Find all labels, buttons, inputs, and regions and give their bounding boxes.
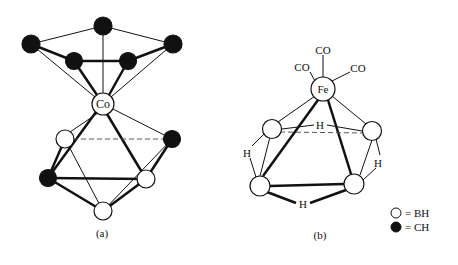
ch-atom (94, 17, 112, 35)
diagram-canvas: Co (a) Fe CO CO CO H H H H (b (0, 0, 458, 265)
bh-atom (263, 120, 282, 139)
bh-legend-icon (391, 208, 401, 218)
ch-atom (164, 35, 182, 53)
bh-atom (94, 202, 112, 220)
ch-legend-icon (391, 222, 401, 232)
ch-atom (66, 53, 83, 70)
figure-b-atoms (250, 77, 382, 196)
legend-ch-label: = CH (405, 221, 429, 233)
ch-atom (40, 170, 57, 187)
fe-label: Fe (318, 83, 329, 95)
bridging-h-bottom: H (299, 198, 307, 210)
bh-atom (137, 170, 155, 188)
caption-a: (a) (96, 227, 109, 240)
co-label: Co (96, 97, 110, 111)
legend: = BH = CH (391, 207, 429, 233)
ch-atom (164, 131, 181, 148)
co-ligand-top: CO (315, 44, 330, 56)
bh-atom (344, 174, 364, 194)
bridging-h-top: H (316, 119, 324, 131)
bridging-h-left: H (243, 147, 251, 159)
ch-atom (120, 53, 137, 70)
bridging-h-right: H (374, 157, 382, 169)
co-ligand-right: CO (350, 62, 365, 74)
legend-bh-label: = BH (405, 207, 429, 219)
bh-atom (56, 130, 74, 148)
bh-atom (363, 122, 382, 141)
caption-b: (b) (314, 229, 327, 242)
ch-atom (22, 35, 40, 53)
figure-a-atoms (22, 17, 182, 220)
bh-atom (250, 176, 270, 196)
co-ligand-left: CO (294, 61, 309, 73)
